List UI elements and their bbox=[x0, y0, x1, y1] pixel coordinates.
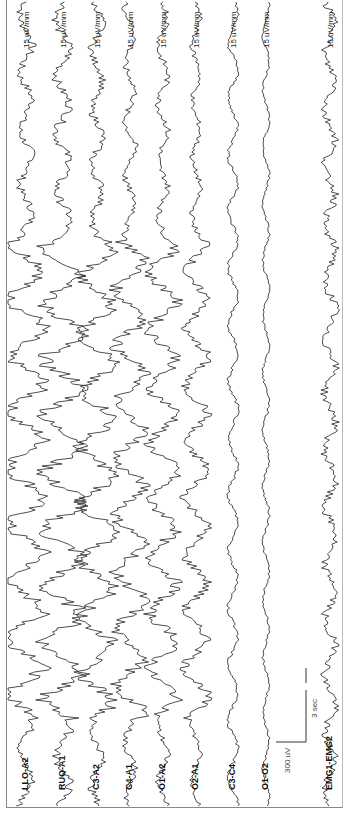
amplitude-scale-label: 300 uV bbox=[283, 748, 292, 773]
time-scale-label: 3 sec bbox=[310, 699, 319, 718]
